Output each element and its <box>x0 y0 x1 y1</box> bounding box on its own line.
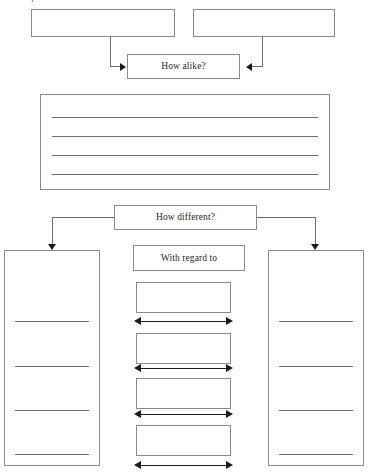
similarities-line-2[interactable] <box>52 136 318 137</box>
aspect-box-4[interactable] <box>136 425 231 456</box>
clipped-heading-text: noted topics <box>3 0 45 2</box>
left-column-line-4[interactable] <box>15 454 89 455</box>
graphic-organizer-worksheet: noted topics How alike? How different? <box>0 0 368 475</box>
arrowhead-right-4 <box>226 461 233 469</box>
connector-subject-b-vertical <box>262 37 263 67</box>
subject-b-box[interactable] <box>193 9 335 37</box>
arrow-shaft-3 <box>139 414 228 415</box>
with-regard-to-box[interactable]: With regard to <box>133 245 245 271</box>
connector-contrast-right-horizontal <box>257 217 316 218</box>
left-column-line-1[interactable] <box>15 321 89 322</box>
how-alike-box[interactable]: How alike? <box>127 54 240 79</box>
similarities-line-1[interactable] <box>52 117 318 118</box>
arrowhead-right-1 <box>226 317 233 325</box>
right-column-line-1[interactable] <box>279 321 353 322</box>
comparison-arrow-4 <box>134 461 233 470</box>
how-different-label: How different? <box>156 212 215 222</box>
comparison-arrow-1 <box>134 317 233 326</box>
comparison-arrow-3 <box>134 410 233 419</box>
connector-subject-a-vertical <box>110 37 111 67</box>
arrow-shaft-1 <box>139 321 228 322</box>
with-regard-to-label: With regard to <box>161 253 217 263</box>
aspect-box-1[interactable] <box>136 282 231 313</box>
arrowhead-into-how-alike-right <box>246 63 252 71</box>
arrowhead-right-3 <box>226 410 233 418</box>
arrowhead-into-how-alike-left <box>120 63 126 71</box>
right-differences-column[interactable] <box>268 250 364 466</box>
comparison-arrow-2 <box>134 364 233 373</box>
how-alike-label: How alike? <box>161 61 206 71</box>
connector-subject-b-horizontal <box>252 66 263 67</box>
aspect-box-2[interactable] <box>136 333 231 364</box>
similarities-line-3[interactable] <box>52 155 318 156</box>
aspect-box-3[interactable] <box>136 378 231 409</box>
right-column-line-4[interactable] <box>279 454 353 455</box>
connector-contrast-left-horizontal <box>52 217 114 218</box>
similarities-answer-box[interactable] <box>40 94 330 190</box>
left-differences-column[interactable] <box>4 250 100 466</box>
right-column-line-2[interactable] <box>279 366 353 367</box>
right-column-line-3[interactable] <box>279 410 353 411</box>
arrowhead-right-2 <box>226 364 233 372</box>
subject-a-box[interactable] <box>31 9 175 37</box>
similarities-line-4[interactable] <box>52 174 318 175</box>
arrow-shaft-4 <box>139 465 228 466</box>
how-different-box[interactable]: How different? <box>114 205 257 230</box>
left-column-line-3[interactable] <box>15 410 89 411</box>
arrow-shaft-2 <box>139 368 228 369</box>
left-column-line-2[interactable] <box>15 366 89 367</box>
